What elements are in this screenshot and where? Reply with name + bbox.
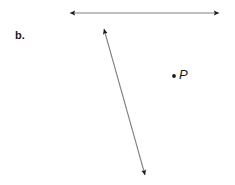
figure-canvas (0, 0, 235, 185)
diagonal-line (104, 29, 145, 175)
point-p-dot (172, 74, 176, 78)
part-label: b. (15, 30, 25, 41)
geometry-figure: b. P (0, 0, 235, 185)
point-p-label: P (179, 68, 188, 81)
